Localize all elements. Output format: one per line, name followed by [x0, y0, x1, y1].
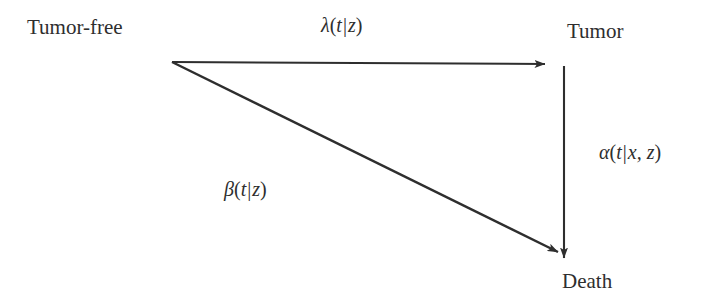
edge-label-alpha-cond: x, z [628, 141, 655, 163]
edge-label-beta-open: ( [234, 178, 241, 200]
edge-label-beta-close: ) [260, 178, 267, 200]
diagram-canvas: Tumor-free Tumor Death λ(t|z) β(t|z) α(t… [0, 0, 701, 305]
edge-label-lambda-close: ) [356, 14, 363, 36]
edge-label-alpha: α(t|x, z) [599, 142, 661, 162]
edge-label-beta-cond: z [252, 178, 260, 200]
edge-label-lambda-fn: λ [321, 14, 330, 36]
edge-label-lambda: λ(t|z) [321, 15, 362, 35]
node-label-tumor: Tumor [567, 21, 623, 42]
edge-label-alpha-fn: α [599, 141, 610, 163]
edge-label-lambda-cond: z [348, 14, 356, 36]
edge-tumor-free-to-death [172, 62, 558, 252]
edge-label-beta: β(t|z) [224, 179, 267, 199]
edge-tumor-free-to-tumor [172, 62, 545, 64]
edge-label-beta-fn: β [224, 178, 234, 200]
diagram-edges [0, 0, 701, 305]
node-label-tumor-free: Tumor-free [27, 17, 123, 38]
edge-label-alpha-close: ) [654, 141, 661, 163]
edge-label-alpha-arg: t [616, 141, 622, 163]
node-label-death: Death [562, 271, 612, 292]
